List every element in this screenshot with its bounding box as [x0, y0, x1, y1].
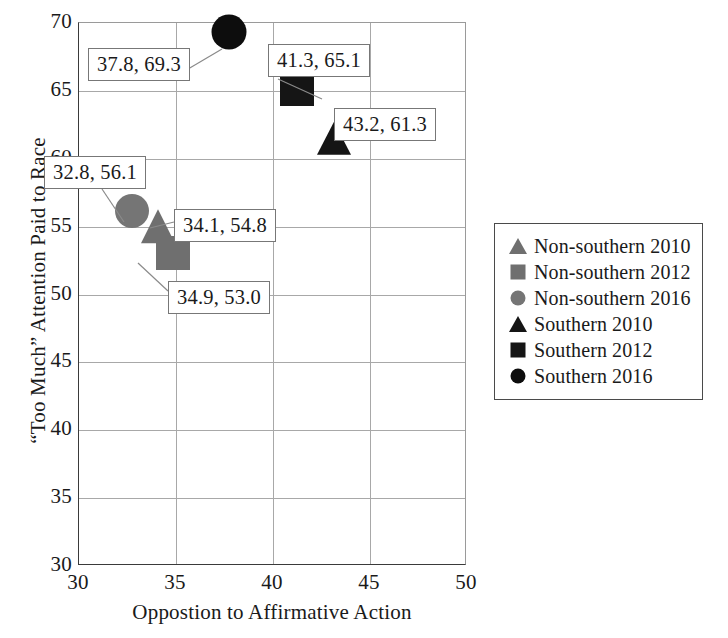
gridline-horizontal — [79, 91, 465, 92]
gridline-horizontal — [79, 430, 465, 431]
callout-label: 34.1, 54.8 — [174, 209, 276, 242]
legend-item-non-southern-2010[interactable]: Non-southern 2010 — [506, 233, 692, 259]
data-point-circle — [212, 14, 247, 49]
gridline-horizontal — [79, 295, 465, 296]
legend-item-label: Non-southern 2012 — [534, 262, 691, 282]
legend-item-non-southern-2012[interactable]: Non-southern 2012 — [506, 259, 692, 285]
legend-item-label: Southern 2010 — [534, 314, 653, 334]
gridline-horizontal — [79, 498, 465, 499]
legend-item-label: Non-southern 2010 — [534, 236, 691, 256]
callout-label: 43.2, 61.3 — [334, 108, 436, 141]
legend-item-southern-2012[interactable]: Southern 2012 — [506, 337, 692, 363]
callout-label: 41.3, 65.1 — [268, 44, 370, 77]
triangle-marker-icon — [506, 313, 530, 335]
y-axis-title: “Too Much” Attention Paid to Race — [26, 11, 51, 571]
triangle-marker-icon — [506, 235, 530, 257]
legend-item-southern-2016[interactable]: Southern 2016 — [506, 363, 692, 389]
legend-item-non-southern-2016[interactable]: Non-southern 2016 — [506, 285, 692, 311]
circle-marker-icon — [506, 287, 530, 309]
circle-marker-icon — [506, 365, 530, 387]
gridline-horizontal — [79, 362, 465, 363]
x-tick-label: 35 — [164, 572, 186, 593]
callout-label: 34.9, 53.0 — [168, 281, 270, 314]
x-axis-tick-labels: 3035404550 — [78, 572, 466, 598]
legend-item-label: Southern 2012 — [534, 340, 653, 360]
chart-legend: Non-southern 2010Non-southern 2012Non-so… — [494, 223, 703, 400]
data-point-circle — [115, 194, 149, 228]
x-tick-label: 45 — [358, 572, 380, 593]
plot-area — [78, 22, 466, 565]
square-marker-icon — [506, 261, 530, 283]
x-axis-title: Oppostion to Affirmative Action — [78, 600, 466, 625]
gridline-vertical — [370, 23, 371, 564]
legend-item-label: Non-southern 2016 — [534, 288, 691, 308]
square-marker-icon — [506, 339, 530, 361]
x-tick-label: 40 — [261, 572, 283, 593]
x-tick-label: 30 — [67, 572, 89, 593]
callout-label: 32.8, 56.1 — [44, 156, 146, 189]
legend-item-label: Southern 2016 — [534, 366, 653, 386]
callout-label: 37.8, 69.3 — [88, 48, 190, 81]
scatter-chart-figure: 303540455055606570 3035404550 Oppostion … — [0, 0, 728, 638]
gridline-vertical — [273, 23, 274, 564]
x-tick-label: 50 — [455, 572, 477, 593]
legend-item-southern-2010[interactable]: Southern 2010 — [506, 311, 692, 337]
